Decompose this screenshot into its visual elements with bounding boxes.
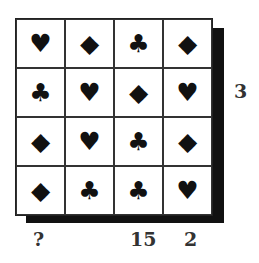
diamond-icon: ◆ bbox=[114, 68, 163, 117]
row-2-label: 3 bbox=[234, 80, 247, 102]
col-1-label: ? bbox=[33, 228, 44, 250]
col-4-label: 2 bbox=[184, 228, 197, 250]
club-icon: ♣ bbox=[65, 166, 114, 215]
club-icon: ♣ bbox=[114, 19, 163, 68]
diamond-icon: ◆ bbox=[65, 19, 114, 68]
col-3-label: 15 bbox=[130, 228, 156, 250]
club-icon: ♣ bbox=[114, 117, 163, 166]
diamond-icon: ◆ bbox=[163, 19, 212, 68]
heart-icon: ♥ bbox=[163, 166, 212, 215]
diamond-icon: ◆ bbox=[163, 117, 212, 166]
diamond-icon: ◆ bbox=[16, 117, 65, 166]
heart-icon: ♥ bbox=[65, 68, 114, 117]
heart-icon: ♥ bbox=[163, 68, 212, 117]
club-icon: ♣ bbox=[16, 68, 65, 117]
symbol-grid: ♥◆♣◆♣♥◆♥◆♥♣◆◆♣♣♥ bbox=[15, 18, 213, 216]
club-icon: ♣ bbox=[114, 166, 163, 215]
heart-icon: ♥ bbox=[65, 117, 114, 166]
diamond-icon: ◆ bbox=[16, 166, 65, 215]
heart-icon: ♥ bbox=[16, 19, 65, 68]
